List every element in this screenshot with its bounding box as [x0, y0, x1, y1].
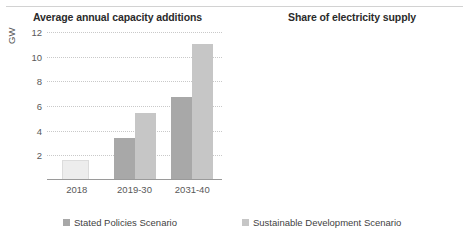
legend-label: Stated Policies Scenario	[74, 217, 177, 228]
legend-swatch-icon	[63, 219, 70, 226]
left-y-axis-label: GW	[6, 28, 17, 44]
left-chart-panel: Average annual capacity additions GW 12 …	[0, 0, 235, 236]
y-axis-tick: 4	[37, 125, 42, 136]
bar-sustainable-development[interactable]	[192, 44, 213, 180]
bar-group	[108, 32, 161, 180]
y-axis-tick: 6	[37, 101, 42, 112]
bar-group	[51, 32, 104, 180]
right-chart-panel: Share of electricity supply 6% 5% 4% 3% …	[235, 0, 469, 236]
y-axis-tick: 10	[31, 51, 42, 62]
y-axis-tick: 2	[37, 150, 42, 161]
y-axis-tick: 8	[37, 76, 42, 87]
y-axis-tick: 12	[31, 27, 42, 38]
x-axis-tick: 2019-30	[117, 184, 152, 195]
left-plot-area: 12 10 8 6 4 2 2018 2019-30 2031-40	[47, 32, 222, 180]
legend-label: Sustainable Development Scenario	[253, 217, 401, 228]
legend-swatch-icon	[242, 219, 249, 226]
legend-sustainable-development: Sustainable Development Scenario	[242, 217, 401, 228]
x-axis-line	[47, 179, 222, 180]
bar-stated-policies[interactable]	[171, 97, 192, 180]
bar-group	[166, 32, 219, 180]
right-chart-title: Share of electricity supply	[235, 11, 469, 23]
left-chart-title: Average annual capacity additions	[0, 11, 235, 23]
x-axis-tick: 2031-40	[175, 184, 210, 195]
bar-historical-2018[interactable]	[62, 160, 89, 180]
bar-sustainable-development[interactable]	[135, 113, 156, 180]
legend-stated-policies: Stated Policies Scenario	[63, 217, 177, 228]
bar-stated-policies[interactable]	[114, 138, 135, 180]
x-axis-tick: 2018	[66, 184, 87, 195]
